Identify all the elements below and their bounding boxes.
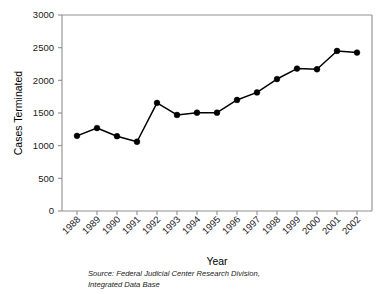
x-axis-title: Year bbox=[206, 255, 228, 267]
x-tick-label: 1996 bbox=[220, 214, 243, 237]
x-tick-label: 1992 bbox=[140, 214, 163, 237]
data-point bbox=[214, 110, 220, 116]
y-tick-label: 500 bbox=[38, 173, 54, 184]
source-note-line-2: Integrated Data Base bbox=[88, 280, 160, 289]
y-axis-ticks bbox=[58, 15, 62, 211]
data-series-line bbox=[77, 51, 357, 142]
y-tick-label: 1500 bbox=[33, 107, 54, 118]
data-point bbox=[294, 66, 300, 72]
data-point bbox=[234, 97, 240, 103]
data-point bbox=[194, 110, 200, 116]
x-tick-label: 1998 bbox=[260, 214, 283, 237]
y-tick-label: 1000 bbox=[33, 140, 54, 151]
x-tick-label: 2002 bbox=[340, 214, 363, 237]
x-tick-label: 2001 bbox=[320, 214, 343, 237]
x-axis-tick-labels: 1988198919901991199219931994199519961997… bbox=[60, 214, 363, 237]
data-point bbox=[354, 50, 360, 56]
y-axis-tick-labels: 050010001500200025003000 bbox=[33, 9, 54, 216]
data-point bbox=[174, 112, 180, 118]
x-tick-label: 1997 bbox=[240, 214, 263, 237]
data-point bbox=[74, 133, 80, 139]
data-point bbox=[254, 90, 260, 96]
data-point bbox=[274, 76, 280, 82]
x-tick-label: 1995 bbox=[200, 214, 223, 237]
x-tick-label: 1994 bbox=[180, 214, 203, 237]
data-point bbox=[134, 139, 140, 145]
y-tick-label: 2000 bbox=[33, 75, 54, 86]
data-point bbox=[94, 125, 100, 131]
x-tick-label: 1999 bbox=[280, 214, 303, 237]
source-note-line-1: Source: Federal Judicial Center Research… bbox=[88, 269, 260, 278]
chart-figure: 050010001500200025003000 198819891990199… bbox=[0, 0, 391, 294]
x-tick-label: 1993 bbox=[160, 214, 183, 237]
x-tick-label: 2000 bbox=[300, 214, 323, 237]
y-tick-label: 2500 bbox=[33, 42, 54, 53]
data-series-markers bbox=[74, 48, 360, 145]
data-point bbox=[314, 66, 320, 72]
x-tick-label: 1990 bbox=[100, 214, 123, 237]
y-axis-title: Cases Terminated bbox=[12, 71, 24, 156]
data-point bbox=[154, 100, 160, 106]
x-tick-label: 1988 bbox=[60, 214, 83, 237]
chart-canvas: 050010001500200025003000 198819891990199… bbox=[0, 0, 391, 294]
y-tick-label: 0 bbox=[49, 205, 54, 216]
x-tick-label: 1989 bbox=[80, 214, 103, 237]
y-tick-label: 3000 bbox=[33, 9, 54, 20]
x-tick-label: 1991 bbox=[120, 214, 143, 237]
data-point bbox=[334, 48, 340, 54]
data-point bbox=[114, 133, 120, 139]
